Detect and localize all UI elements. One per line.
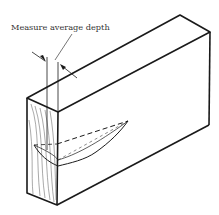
end-grain [29, 104, 56, 202]
check-crack [34, 121, 128, 166]
beam-outline [27, 15, 210, 205]
beam-diagram: Measure average depth [0, 0, 219, 215]
annotation-label: Measure average depth [11, 22, 110, 32]
